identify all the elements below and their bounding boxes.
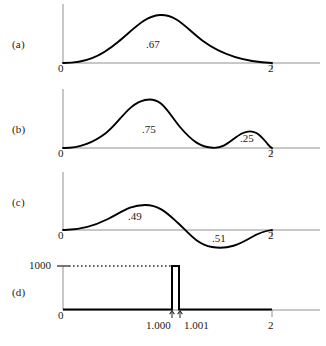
panel-d-x-right-label: 2 [268, 319, 274, 331]
panel-d-x-left-label: 0 [58, 309, 64, 321]
panel-b-tag: (b) [12, 123, 25, 135]
panel-b-x-right-label: 2 [268, 147, 274, 159]
panel-a-tag: (a) [12, 38, 25, 50]
panel-d-x-tick-label-1001: 1.001 [184, 319, 209, 331]
panel-c-plot [0, 168, 326, 260]
panel-b-area-label-2: .25 [240, 132, 254, 144]
panel-c-area-label-1: .49 [128, 210, 142, 222]
panel-b-area-label-1: .75 [142, 123, 156, 135]
panel-a-x-right-label: 2 [268, 62, 274, 74]
panel-c-x-left-label: 0 [58, 229, 64, 241]
panel-d-plot [0, 258, 326, 346]
panel-a-x-left-label: 0 [58, 62, 64, 74]
panel-a-area-label-1: .67 [146, 38, 160, 50]
curve-a [63, 15, 272, 63]
curve-c [63, 205, 272, 248]
panel-b-x-left-label: 0 [58, 147, 64, 159]
panel-a-plot [0, 0, 326, 86]
panel-b-plot [0, 85, 326, 171]
panel-d-x-tick-label-1000: 1.000 [146, 319, 171, 331]
panel-c-x-right-label: 2 [268, 229, 274, 241]
panel-c-tag: (c) [12, 196, 25, 208]
panel-c-area-label-2: .51 [212, 232, 226, 244]
panel-d-y-top-label: 1000 [29, 259, 51, 271]
curve-d-spike [63, 266, 272, 309]
panel-d-tag: (d) [12, 286, 25, 298]
figure-container: (a) 0 2 .67 (b) 0 2 .75 .25 (c) 0 2 .49 [0, 0, 326, 346]
